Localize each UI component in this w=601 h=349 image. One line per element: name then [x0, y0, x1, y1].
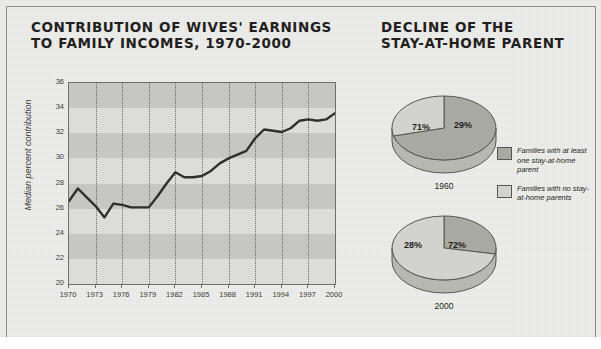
x-tick-1973: 1973 [80, 290, 110, 299]
pie-chart-1960: 71% 29% 1960 [385, 88, 503, 188]
x-tick-1979: 1979 [133, 290, 163, 299]
x-axis-tick-labels: 1970197319761979198219851988199119941997… [0, 290, 366, 306]
x-tickmark-1973 [95, 284, 96, 288]
legend-label-no-stay-at-home: Families with no stay-at-home parents [517, 184, 597, 203]
pie-1960-graphic [385, 88, 503, 180]
y-tick-34: 34 [40, 102, 64, 111]
line-chart-title-line2: TO FAMILY INCOMES, 1970-2000 [31, 35, 351, 51]
pie-chart-2000: 28% 72% 2000 [385, 208, 503, 308]
y-tick-30: 30 [40, 152, 64, 161]
x-tick-1985: 1985 [186, 290, 216, 299]
line-chart-plot-area [68, 82, 336, 285]
legend-swatch-dark [497, 147, 512, 160]
legend-item-no-stay-at-home: Families with no stay-at-home parents [497, 184, 597, 203]
x-tick-1988: 1988 [213, 290, 243, 299]
x-tick-1970: 1970 [53, 290, 83, 299]
y-tick-22: 22 [40, 253, 64, 262]
pie-chart-title-line1: DECLINE OF THE [381, 19, 591, 35]
y-tick-26: 26 [40, 203, 64, 212]
x-tick-1976: 1976 [106, 290, 136, 299]
data-line [69, 83, 335, 284]
y-tick-24: 24 [40, 228, 64, 237]
x-tickmark-2000 [334, 284, 335, 288]
x-tickmark-1970 [68, 284, 69, 288]
x-tickmark-1994 [281, 284, 282, 288]
y-tick-20: 20 [40, 278, 64, 287]
x-tickmark-1982 [174, 284, 175, 288]
x-tickmark-1991 [254, 284, 255, 288]
line-chart-title: CONTRIBUTION OF WIVES' EARNINGS TO FAMIL… [31, 19, 351, 51]
x-tick-1994: 1994 [266, 290, 296, 299]
x-tickmark-1976 [121, 284, 122, 288]
page-bottom-margin [0, 337, 601, 349]
x-tickmark-1997 [307, 284, 308, 288]
pie-2000-caption: 2000 [385, 301, 503, 311]
pie-2000-graphic [385, 208, 503, 300]
x-tick-1997: 1997 [292, 290, 322, 299]
legend-label-stay-at-home: Families with at least one stay-at-home … [517, 146, 597, 175]
y-tick-28: 28 [40, 178, 64, 187]
x-tick-1982: 1982 [159, 290, 189, 299]
line-chart-title-line1: CONTRIBUTION OF WIVES' EARNINGS [31, 19, 351, 35]
x-tickmark-1985 [201, 284, 202, 288]
pie-chart-title: DECLINE OF THE STAY-AT-HOME PARENT [381, 19, 591, 51]
y-tick-32: 32 [40, 127, 64, 136]
pie-1960-slice-light-value: 29% [454, 120, 472, 130]
x-tick-2000: 2000 [319, 290, 349, 299]
pie-1960-slice-dark-value: 71% [412, 122, 430, 132]
line-chart-panel: CONTRIBUTION OF WIVES' EARNINGS TO FAMIL… [0, 0, 366, 330]
x-tickmark-1979 [148, 284, 149, 288]
pie-legend: Families with at least one stay-at-home … [497, 146, 597, 212]
pie-chart-title-line2: STAY-AT-HOME PARENT [381, 35, 591, 51]
legend-swatch-light [497, 185, 512, 198]
pie-1960-caption: 1960 [385, 181, 503, 191]
x-tickmark-1988 [228, 284, 229, 288]
pie-2000-slice-light-value: 72% [448, 240, 466, 250]
y-tick-36: 36 [40, 77, 64, 86]
legend-item-stay-at-home: Families with at least one stay-at-home … [497, 146, 597, 175]
x-tick-1991: 1991 [239, 290, 269, 299]
pie-chart-panel: DECLINE OF THE STAY-AT-HOME PARENT 71% 2… [366, 0, 601, 330]
poster-page: CONTRIBUTION OF WIVES' EARNINGS TO FAMIL… [0, 0, 601, 349]
pie-2000-slice-dark-value: 28% [404, 240, 422, 250]
